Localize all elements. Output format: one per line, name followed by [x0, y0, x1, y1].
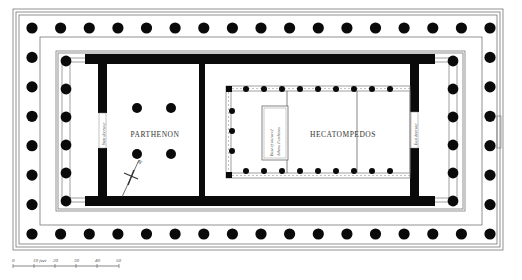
column: [26, 52, 37, 63]
column: [198, 228, 209, 239]
column: [198, 22, 209, 33]
scale-tick-50: 50: [116, 258, 122, 263]
scale-tick-10: 10 feet: [33, 258, 47, 263]
column: [55, 22, 66, 33]
west-porch-lines: [62, 58, 86, 205]
column: [399, 22, 410, 33]
column: [284, 22, 295, 33]
column: [170, 22, 181, 33]
cella-platform-outline: [56, 51, 465, 211]
column: [26, 22, 37, 33]
column: [448, 84, 459, 95]
east-doorway: East doorway: [411, 112, 418, 148]
column: [112, 22, 123, 33]
scale-tick-20: 20: [53, 258, 59, 263]
west-doorway-label: West doorway: [101, 122, 106, 145]
column: [484, 22, 495, 33]
krepidoma-outline: [13, 9, 503, 250]
scale-tick-40: 40: [95, 258, 101, 263]
column: [141, 228, 152, 239]
column: [448, 56, 459, 67]
column: [227, 22, 238, 33]
column: [456, 228, 467, 239]
east-doorway-label: East doorway: [413, 123, 418, 146]
column: [484, 81, 495, 92]
column: [484, 52, 495, 63]
column: [448, 168, 459, 179]
east-porch-lines: [435, 58, 457, 205]
column: [26, 199, 37, 210]
column: [427, 228, 438, 239]
column: [227, 228, 238, 239]
column: [313, 228, 324, 239]
column: [26, 140, 37, 151]
scale-tick-0: 0: [12, 258, 15, 263]
column: [84, 228, 95, 239]
column: [484, 199, 495, 210]
column: [448, 112, 459, 123]
column: [484, 111, 495, 122]
column: [448, 196, 459, 207]
column: [370, 228, 381, 239]
column: [255, 228, 266, 239]
column: [284, 228, 295, 239]
column: [370, 22, 381, 33]
column: [313, 22, 324, 33]
column: [26, 228, 37, 239]
column: [26, 170, 37, 181]
porch-columns: [61, 56, 459, 207]
column: [61, 84, 72, 95]
column: [112, 228, 123, 239]
column: [255, 22, 266, 33]
column: [484, 228, 495, 239]
column: [61, 140, 72, 151]
column: [341, 22, 352, 33]
scale-bar: 0 10 feet 20 30 40 50: [12, 258, 122, 268]
column: [341, 228, 352, 239]
column: [61, 56, 72, 67]
column: [456, 22, 467, 33]
column: [55, 228, 66, 239]
column: [141, 22, 152, 33]
statue-base-label-line2: Athena Parthenos: [276, 127, 281, 157]
column: [448, 140, 459, 151]
scale-tick-30: 30: [74, 258, 80, 263]
statue-base-label-line1: Base of statue of: [269, 129, 274, 156]
hecatompedos-room-label: HECATOMPEDOS: [310, 130, 376, 139]
statue-base: Base of statue of Athena Parthenos: [262, 106, 288, 160]
west-doorway: West doorway: [99, 113, 106, 148]
column: [427, 22, 438, 33]
column: [484, 170, 495, 181]
north-arrow-icon: N: [122, 158, 144, 197]
column: [26, 111, 37, 122]
column: [170, 228, 181, 239]
parthenon-floor-plan: West doorway East doorway: [0, 0, 522, 280]
column: [61, 168, 72, 179]
column: [26, 81, 37, 92]
column: [61, 196, 72, 207]
parthenon-room-label: PARTHENON: [131, 130, 180, 139]
column: [61, 112, 72, 123]
column: [484, 140, 495, 151]
column: [84, 22, 95, 33]
column: [399, 228, 410, 239]
